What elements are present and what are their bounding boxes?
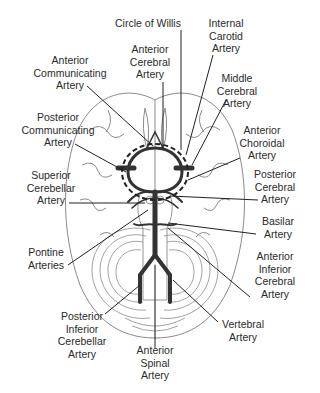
label-anterior-cerebral-artery: Anterior Cerebral Artery xyxy=(130,43,170,81)
label-line: Artery xyxy=(217,97,257,110)
label-line: Artery xyxy=(255,288,295,301)
label-superior-cerebellar-artery: Superior Cerebellar Artery xyxy=(27,169,75,207)
label-line: Carotid xyxy=(208,30,243,43)
label-line: Anterior xyxy=(255,250,295,263)
label-line: Basilar xyxy=(262,215,294,228)
label-line: Cerebellar xyxy=(58,335,106,348)
label-vertebral-artery: Vertebral Artery xyxy=(222,318,264,343)
label-line: Artery xyxy=(208,42,243,55)
label-line: Communicating xyxy=(34,67,107,80)
label-line: Cerebral xyxy=(254,181,296,194)
label-line: Artery xyxy=(254,193,296,206)
label-anterior-communicating-artery: Anterior Communicating Artery xyxy=(34,54,107,92)
label-line: Cerebellar xyxy=(27,182,75,195)
label-anterior-choroidal-artery: Anterior Choroidal Artery xyxy=(240,124,285,162)
label-line: Arteries xyxy=(28,259,64,272)
label-internal-carotid-artery: Internal Carotid Artery xyxy=(208,17,243,55)
label-line: Artery xyxy=(137,369,174,382)
label-line: Internal xyxy=(208,17,243,30)
label-line: Artery xyxy=(130,68,170,81)
label-line: Posterior xyxy=(254,168,296,181)
label-line: Cerebral xyxy=(130,56,170,69)
label-line: Anterior xyxy=(137,344,174,357)
label-line: Middle xyxy=(217,72,257,85)
label-line: Cerebral xyxy=(255,275,295,288)
label-line: Artery xyxy=(58,348,106,361)
label-line: Vertebral xyxy=(222,318,264,331)
label-line: Artery xyxy=(22,136,95,149)
label-middle-cerebral-artery: Middle Cerebral Artery xyxy=(217,72,257,110)
label-line: Inferior xyxy=(255,263,295,276)
label-posterior-cerebral-artery: Posterior Cerebral Artery xyxy=(254,168,296,206)
label-line: Artery xyxy=(34,79,107,92)
label-line: Inferior xyxy=(58,323,106,336)
label-posterior-inferior-cerebellar-artery: Posterior Inferior Cerebellar Artery xyxy=(58,310,106,360)
label-line: Communicating xyxy=(22,124,95,137)
label-line: Artery xyxy=(27,194,75,207)
label-line: Posterior xyxy=(58,310,106,323)
label-pontine-arteries: Pontine Arteries xyxy=(28,246,64,271)
label-anterior-spinal-artery: Anterior Spinal Artery xyxy=(137,344,174,382)
label-posterior-communicating-artery: Posterior Communicating Artery xyxy=(22,111,95,149)
label-line: Anterior xyxy=(34,54,107,67)
label-line: Anterior xyxy=(130,43,170,56)
label-line: Artery xyxy=(262,228,294,241)
label-line: Artery xyxy=(222,331,264,344)
label-circle-of-willis: Circle of Willis xyxy=(115,17,181,30)
label-line: Cerebral xyxy=(217,85,257,98)
label-anterior-inferior-cerebral-artery: Anterior Inferior Cerebral Artery xyxy=(255,250,295,300)
label-line: Posterior xyxy=(22,111,95,124)
label-line: Circle of Willis xyxy=(115,17,181,30)
label-line: Superior xyxy=(27,169,75,182)
label-line: Anterior xyxy=(240,124,285,137)
label-basilar-artery: Basilar Artery xyxy=(262,215,294,240)
label-line: Artery xyxy=(240,149,285,162)
label-line: Pontine xyxy=(28,246,64,259)
label-line: Spinal xyxy=(137,357,174,370)
label-line: Choroidal xyxy=(240,137,285,150)
